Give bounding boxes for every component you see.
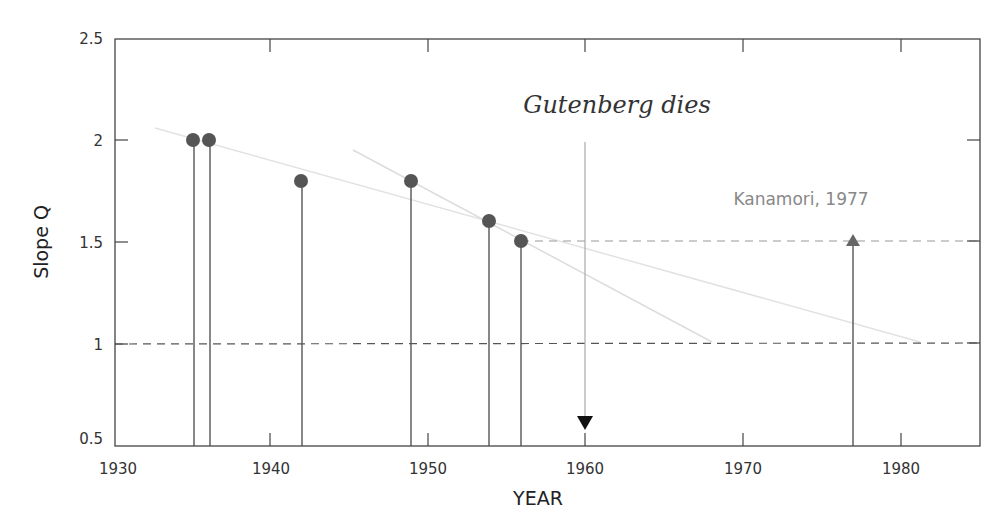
y-tick-label: 2	[93, 132, 103, 150]
x-tick-label: 1970	[724, 460, 762, 478]
x-tick-label: 1980	[882, 460, 920, 478]
y-tick-label: 0.5	[79, 430, 103, 448]
x-tick-label: 1930	[99, 460, 137, 478]
slope-q-chart: 1930 1940 1950 1960 1970 1980 0.5 1 1.5 …	[0, 0, 1006, 530]
series-gutenberg	[194, 140, 521, 446]
x-axis-title: YEAR	[512, 487, 563, 509]
data-point-1935	[186, 133, 200, 147]
data-point-1942	[294, 174, 308, 188]
kanamori-annotation: Kanamori, 1977	[733, 189, 868, 209]
data-point-1936	[202, 133, 216, 147]
gutenberg-annotation: Gutenberg dies	[523, 91, 711, 119]
data-point-1954	[482, 214, 496, 228]
y-tick-label: 1.5	[79, 234, 103, 252]
y-axis-title: Slope Q	[30, 205, 52, 279]
y-tick-label: 1	[93, 336, 103, 354]
arrow-down-icon	[577, 416, 593, 430]
data-point-1956	[514, 234, 528, 248]
x-tick-label: 1940	[252, 460, 290, 478]
data-point-1949	[404, 174, 418, 188]
triangle-up-icon	[846, 234, 860, 246]
reference-line-q1	[115, 343, 980, 344]
x-tick-label: 1950	[409, 460, 447, 478]
trend-line-gentle	[155, 128, 920, 342]
x-tick-label: 1960	[566, 460, 604, 478]
y-tick-label: 2.5	[79, 30, 103, 48]
